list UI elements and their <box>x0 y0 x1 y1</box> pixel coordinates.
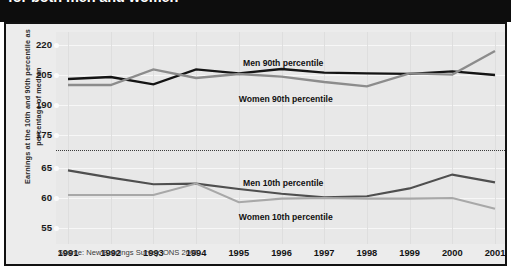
y-axis-tick-label: 190 <box>36 99 52 110</box>
x-axis-tick-label: 2000 <box>442 248 463 258</box>
y-axis-tick-labels: 220205190175656055 <box>20 32 52 244</box>
x-axis-tick-label: 1998 <box>357 248 378 258</box>
y-axis-tick-label: 205 <box>36 69 52 80</box>
plot-area: Men 90th percentileWomen 90th percentile… <box>56 32 505 244</box>
series-inline-label: Women 90th percentile <box>239 94 333 104</box>
chart-header-band: for both men and women <box>0 0 511 22</box>
chart-figure: for both men and women Earnings at the 1… <box>0 0 511 270</box>
y-axis-tick-label: 65 <box>41 162 52 173</box>
series-inline-label: Women 10th percentile <box>239 212 333 222</box>
x-axis-tick-label: 1996 <box>271 248 292 258</box>
source-note: Source: New Earnings Survey, ONS 2002 <box>58 248 198 257</box>
y-axis-tick-label: 55 <box>41 222 52 233</box>
chart-card: Earnings at the 10th and 90th percentile… <box>4 22 507 266</box>
y-axis-tick-label: 220 <box>36 39 52 50</box>
x-axis-tick-label: 2001 <box>485 248 506 258</box>
series-inline-label: Men 10th percentile <box>243 178 323 188</box>
y-axis-tick-label: 60 <box>41 192 52 203</box>
series-inline-label: Men 90th percentile <box>243 58 323 68</box>
x-axis-tick-label: 1997 <box>314 248 335 258</box>
chart-title: for both men and women <box>8 0 178 5</box>
y-axis-tick-label: 175 <box>36 129 52 140</box>
x-axis-tick-label: 1995 <box>228 248 249 258</box>
x-axis-tick-label: 1999 <box>399 248 420 258</box>
